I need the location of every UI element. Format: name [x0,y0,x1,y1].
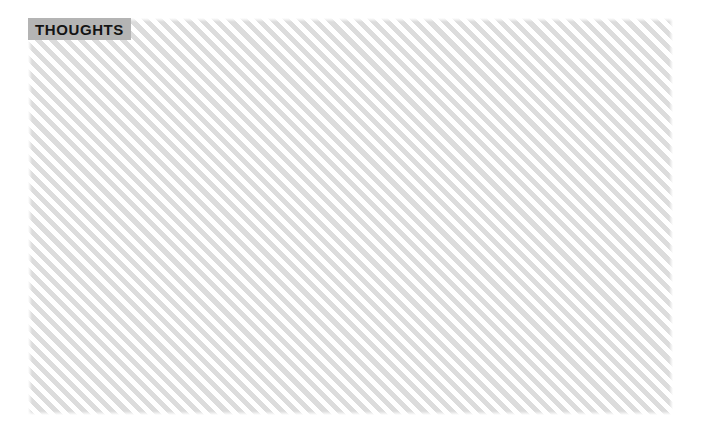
thoughts-panel [28,18,673,415]
screen-root: THOUGHTS [0,0,701,433]
thoughts-section-label: THOUGHTS [28,18,131,40]
